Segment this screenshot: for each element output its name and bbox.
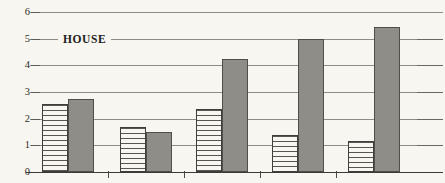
right-tick-2 <box>417 119 443 120</box>
bar-hatched-4 <box>272 135 298 172</box>
bar-solid-5 <box>374 27 400 172</box>
bar-hatched-1 <box>42 104 68 172</box>
ytick-stub-1 <box>31 145 40 146</box>
group-separator-2 <box>184 171 185 178</box>
ytick-label-0: 0 <box>14 167 30 178</box>
right-tick-3 <box>417 92 443 93</box>
bar-chart: 6 5 4 3 2 1 0 HOUSE <box>0 0 445 183</box>
ytick-label-3: 3 <box>14 87 30 98</box>
bar-solid-4 <box>298 39 324 172</box>
bar-hatched-5 <box>348 141 374 172</box>
ytick-stub-6 <box>31 12 40 13</box>
right-tick-4 <box>417 65 443 66</box>
gridline-6 <box>30 12 443 13</box>
ytick-stub-2 <box>31 119 40 120</box>
ytick-label-4: 4 <box>14 60 30 71</box>
bar-hatched-3 <box>196 109 222 172</box>
bar-solid-2 <box>146 132 172 172</box>
ytick-stub-3 <box>31 92 40 93</box>
group-separator-4 <box>336 171 337 178</box>
right-tick-5 <box>417 39 443 40</box>
ytick-label-5: 5 <box>14 34 30 45</box>
ytick-stub-5 <box>31 39 40 40</box>
bar-hatched-2 <box>120 127 146 172</box>
x-axis-baseline <box>26 172 443 173</box>
plot-area: 6 5 4 3 2 1 0 HOUSE <box>0 0 445 183</box>
right-tick-1 <box>417 145 443 146</box>
bar-solid-1 <box>68 99 94 172</box>
bar-solid-3 <box>222 59 248 172</box>
ytick-label-2: 2 <box>14 114 30 125</box>
ytick-label-6: 6 <box>14 7 30 18</box>
group-separator-3 <box>260 171 261 178</box>
ytick-stub-4 <box>31 65 40 66</box>
ytick-label-1: 1 <box>14 140 30 151</box>
house-annotation-label: HOUSE <box>58 33 111 45</box>
group-separator-1 <box>108 171 109 178</box>
